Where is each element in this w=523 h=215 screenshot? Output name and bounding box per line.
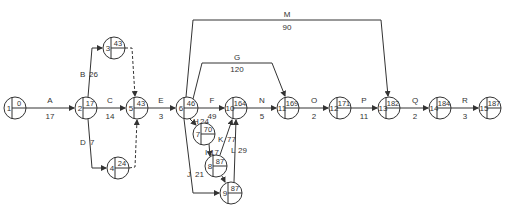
dummy-4-5 xyxy=(129,120,137,168)
label-Q-name: Q xyxy=(412,96,418,105)
node-id: 8 xyxy=(208,162,213,171)
label-F-duration: 49 xyxy=(208,112,217,121)
node-2: 217 xyxy=(75,97,97,119)
label-M-duration: 90 xyxy=(283,23,292,32)
node-11: 11169 xyxy=(277,97,299,119)
node-5: 543 xyxy=(126,97,148,119)
dummy-3-5 xyxy=(125,48,135,96)
node-9: 987 xyxy=(220,182,242,204)
node-id: 6 xyxy=(179,104,184,113)
node-id: 7 xyxy=(196,130,201,139)
label-A-name: A xyxy=(47,96,53,105)
label-R-name: R xyxy=(462,96,468,105)
label-J-duration: 21 xyxy=(195,170,204,179)
node-15: 15187 xyxy=(479,97,501,119)
label-D-duration: 7 xyxy=(90,138,95,147)
node-id: 1 xyxy=(7,104,12,113)
node-4: 424 xyxy=(107,157,129,179)
label-O-duration: 2 xyxy=(312,112,317,121)
node-10: 10164 xyxy=(225,97,247,119)
node-earliest-time: 184 xyxy=(438,99,451,108)
node-earliest-time: 187 xyxy=(488,99,501,108)
node-id: 4 xyxy=(110,164,115,173)
label-N-name: N xyxy=(259,96,265,105)
node-7: 770 xyxy=(193,123,215,145)
node-earliest-time: 182 xyxy=(387,99,400,108)
node-id: 2 xyxy=(78,104,83,113)
node-earliest-time: 169 xyxy=(286,99,299,108)
nodes: 1021734342454364677088798710164111691217… xyxy=(4,37,501,204)
label-N-duration: 5 xyxy=(260,112,265,121)
label-J-name: J xyxy=(187,170,191,179)
node-earliest-time: 17 xyxy=(86,99,94,108)
network-diagram: A 17 B 26 C 14 D 7 E 3 F 49 G 120 H 24 I… xyxy=(0,0,523,215)
label-B-duration: 26 xyxy=(89,70,98,79)
label-O-name: O xyxy=(311,96,317,105)
label-C-duration: 14 xyxy=(106,112,115,121)
node-14: 14184 xyxy=(429,97,451,119)
node-earliest-time: 87 xyxy=(231,184,239,193)
node-8: 887 xyxy=(205,155,227,177)
node-id: 3 xyxy=(106,44,111,53)
node-6: 646 xyxy=(176,97,198,119)
label-L-duration: 29 xyxy=(238,146,247,155)
label-K-name: K xyxy=(218,135,224,144)
node-earliest-time: 43 xyxy=(137,99,145,108)
label-K-duration: 77 xyxy=(227,135,236,144)
node-13: 13182 xyxy=(378,97,400,119)
label-P-name: P xyxy=(361,96,366,105)
label-Q-duration: 2 xyxy=(413,112,418,121)
label-G-name: G xyxy=(234,53,240,62)
node-1: 10 xyxy=(4,97,26,119)
node-earliest-time: 164 xyxy=(234,99,247,108)
label-C-name: C xyxy=(107,96,113,105)
label-F-name: F xyxy=(210,96,215,105)
node-earliest-time: 0 xyxy=(17,99,21,108)
node-earliest-time: 24 xyxy=(118,159,126,168)
node-earliest-time: 43 xyxy=(114,39,122,48)
label-L-name: L xyxy=(231,146,236,155)
label-G-duration: 120 xyxy=(230,65,244,74)
label-E-name: E xyxy=(158,96,163,105)
label-A-duration: 17 xyxy=(46,112,55,121)
edge-labels: A 17 B 26 C 14 D 7 E 3 F 49 G 120 H 24 I… xyxy=(46,10,469,179)
node-id: 5 xyxy=(129,104,134,113)
label-D-name: D xyxy=(80,138,86,147)
dummy-8-9 xyxy=(222,176,225,182)
label-B-name: B xyxy=(80,70,85,79)
node-earliest-time: 171 xyxy=(338,99,351,108)
node-id: 9 xyxy=(223,189,228,198)
label-M-name: M xyxy=(284,10,291,19)
node-earliest-time: 70 xyxy=(204,125,212,134)
label-E-duration: 3 xyxy=(159,112,164,121)
label-P-duration: 11 xyxy=(360,112,369,121)
node-earliest-time: 87 xyxy=(216,157,224,166)
node-earliest-time: 46 xyxy=(187,99,195,108)
node-3: 343 xyxy=(103,37,125,59)
node-12: 12171 xyxy=(329,97,351,119)
label-R-duration: 3 xyxy=(463,112,468,121)
label-I-name: I xyxy=(205,148,207,157)
